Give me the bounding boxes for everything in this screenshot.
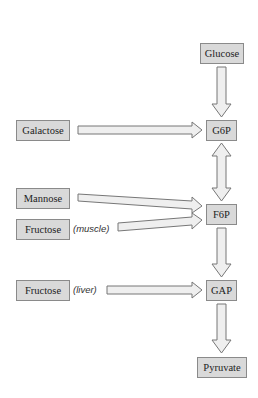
node-label: Fructose [25,224,61,235]
node-label: Pyruvate [203,362,240,373]
node-label: Mannose [24,193,63,204]
annotation-muscle: (muscle) [73,223,109,234]
arrow-fructose-liver-gap [107,282,202,298]
arrow-galactose-g6p [78,122,202,138]
arrow-gap-pyruvate [212,304,231,353]
node-fructose-muscle: Fructose [16,219,70,240]
arrow-mannose-f6p [78,194,202,213]
node-glucose: Glucose [200,43,244,64]
node-f6p: F6P [206,204,237,225]
node-label: Galactose [22,125,63,136]
node-label: G6P [212,125,231,136]
arrow-fructose-muscle-f6p [118,213,202,231]
arrow-f6p-gap [212,228,231,277]
node-fructose-liver: Fructose [16,280,70,301]
node-mannose: Mannose [16,188,70,209]
node-gap: GAP [206,280,237,301]
arrow-glucose-g6p [212,67,231,117]
node-label: GAP [211,285,232,296]
node-galactose: Galactose [16,120,70,141]
arrow-g6p-f6p [212,143,231,201]
annotation-liver: (liver) [73,284,97,295]
node-g6p: G6P [206,120,237,141]
node-label: Glucose [205,48,239,59]
node-label: F6P [213,209,230,220]
node-label: Fructose [25,285,61,296]
node-pyruvate: Pyruvate [197,357,247,378]
